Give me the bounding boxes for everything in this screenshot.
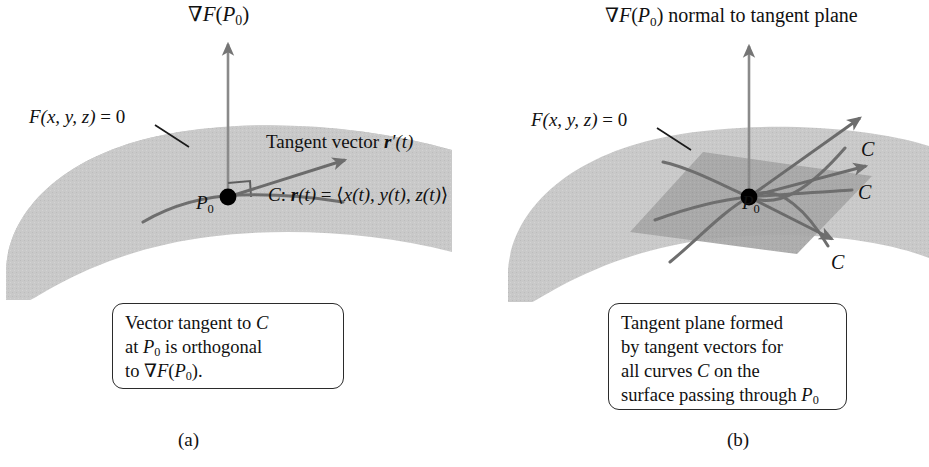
surface-args: (x, y, z) [543,109,598,130]
caption-a-line2-P: P [143,337,154,357]
surface-equation-label-a: F(x, y, z) = 0 [29,107,125,126]
caption-b-line4-pre: surface passing through [621,385,801,405]
caption-a-line1-text: Vector tangent to [125,313,256,333]
curve-label-c-3: C [831,252,844,272]
vector-r: r [291,184,298,205]
gradient-normal-text: normal to tangent plane [663,4,857,26]
nabla-icon: ∇ [605,4,619,26]
paren-open: ( [631,4,638,26]
gradient-F: F [619,4,631,26]
nabla-icon: ∇ [144,361,157,381]
caption-a-line1-math: C [256,313,268,333]
caption-a-line3-P: P [174,361,185,381]
caption-b-line-1: Tangent plane formed [621,311,834,335]
gradient-P-subscript: 0 [650,14,657,29]
surface-equals-zero: = 0 [95,106,125,127]
point-P: P [742,192,754,213]
paren-close: ). [192,361,203,381]
point-P: P [196,192,208,213]
colon: : [281,184,291,205]
caption-b-line-2: by tangent vectors for [621,335,834,359]
tangent-vector-text: Tangent vector [266,131,384,152]
surface-F: F [29,106,41,127]
gradient-label-a: ∇F(P0) [188,4,249,25]
nabla-icon: ∇ [188,2,203,26]
figure-container: ∇F(P0) F(x, y, z) = 0 Tangent vector r′(… [0,0,929,467]
caption-a-line-3: to ∇F(P0). [125,359,331,383]
caption-b-line4-P: P [801,385,812,405]
gradient-F: F [203,2,216,26]
caption-a-line2-post: is orthogonal [160,337,262,357]
caption-b-line4-sub: 0 [813,394,819,408]
curve-label-c-1: C [861,139,874,159]
caption-b-line3-post: on the [709,361,759,381]
curve-arg: (t) [298,184,316,205]
equals: = [316,184,336,205]
curve-parametrization-label-a: C: r(t) = ⟨x(t), y(t), z(t)⟩ [268,185,448,204]
point-label-p0-b: P0 [742,193,760,212]
panel-b-graphics [508,46,929,302]
caption-b-line3-pre: all curves [621,361,697,381]
caption-box-a: Vector tangent to C at P0 is orthogonal … [112,303,344,389]
caption-b-line3-math: C [697,361,709,381]
subcaption-b: (b) [727,429,749,451]
curve-label-c-2: C [858,182,871,202]
surface-equation-label-b: F(x, y, z) = 0 [531,110,627,129]
angle-bracket-close-icon: ⟩ [441,184,448,205]
curve-name-c: C [268,184,281,205]
gradient-P: P [638,4,650,26]
point-P-subscript: 0 [754,202,760,216]
point-P-subscript: 0 [208,202,214,216]
surface-args: (x, y, z) [41,106,96,127]
caption-a-line2-pre: at [125,337,143,357]
point-p0-a [220,189,237,206]
paren-open: ( [216,2,223,26]
caption-a-line-2: at P0 is orthogonal [125,335,331,359]
angle-bracket-open-icon: ⟨ [336,184,343,205]
point-label-p0-a: P0 [196,193,214,212]
tangent-vector-label-a: Tangent vector r′(t) [266,132,413,151]
surface-F: F [531,109,543,130]
subcaption-a: (a) [178,429,199,451]
gradient-P: P [223,2,236,26]
caption-a-line3-F: F [157,361,168,381]
caption-box-b: Tangent plane formed by tangent vectors … [608,303,847,410]
caption-b-line-4: surface passing through P0 [621,383,834,407]
caption-a-line-1: Vector tangent to C [125,311,331,335]
panel-a-graphics [6,44,452,300]
gradient-label-b: ∇F(P0) normal to tangent plane [605,5,858,25]
tangent-vector-arg: (t) [395,131,413,152]
surface-equals-zero: = 0 [597,109,627,130]
paren-close: ) [242,2,249,26]
caption-a-line3-pre: to [125,361,144,381]
caption-b-line-3: all curves C on the [621,359,834,383]
curve-components: x(t), y(t), z(t) [344,184,441,205]
